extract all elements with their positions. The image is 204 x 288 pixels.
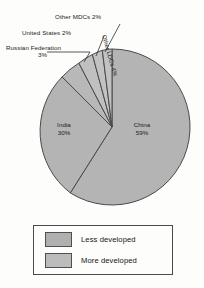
callout-russian-federation: Russian Federation 3% bbox=[6, 44, 61, 59]
legend-label-more-developed: More developed bbox=[81, 256, 137, 265]
slice-label-china-pct: 59% bbox=[124, 129, 160, 137]
callout-russian-federation-pct: 3% bbox=[6, 51, 61, 58]
slice-label-china-name: China bbox=[124, 121, 160, 129]
callout-russian-federation-name: Russian Federation bbox=[6, 44, 61, 51]
chart-legend: Less developed More developed bbox=[33, 225, 173, 275]
legend-swatch-less-developed bbox=[45, 232, 72, 247]
slice-label-india-pct: 30% bbox=[46, 129, 82, 137]
pie-chart-figure: Other MDCs 2% United States 2% Russian F… bbox=[0, 0, 204, 288]
slice-label-india: India 30% bbox=[46, 121, 82, 136]
legend-item-more-developed: More developed bbox=[45, 252, 172, 269]
callout-other-mdcs: Other MDCs 2% bbox=[55, 13, 101, 20]
callout-united-states: United States 2% bbox=[22, 29, 71, 36]
slice-label-india-name: India bbox=[46, 121, 82, 129]
slice-label-china: China 59% bbox=[124, 121, 160, 136]
legend-item-less-developed: Less developed bbox=[45, 231, 172, 248]
legend-swatch-more-developed bbox=[45, 253, 72, 268]
legend-label-less-developed: Less developed bbox=[81, 235, 136, 244]
